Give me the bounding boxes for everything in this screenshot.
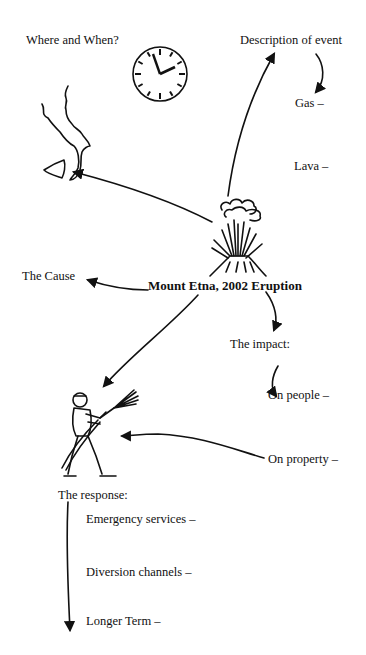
response-label: The response: [58,489,128,502]
emergency-services-label: Emergency services – [86,513,195,526]
volcano-icon [210,199,266,276]
firefighter-icon [62,390,138,476]
italy-sicily-map-icon [42,86,90,180]
cause-label: The Cause [22,270,75,283]
lava-label: Lava – [294,160,328,173]
clock-icon [133,47,187,101]
on-property-label: On property – [268,453,338,466]
diagram-title: Mount Etna, 2002 Eruption [148,279,302,292]
impact-label: The impact: [230,338,290,351]
on-people-label: On people – [268,389,329,402]
description-label: Description of event [240,34,342,47]
gas-label: Gas – [295,97,324,110]
where-when-label: Where and When? [26,34,119,47]
diversion-channels-label: Diversion channels – [86,566,192,579]
longer-term-label: Longer Term – [86,615,161,628]
